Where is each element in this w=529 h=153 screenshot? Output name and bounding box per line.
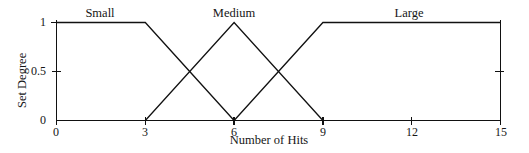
y-axis-title: Set Degree bbox=[16, 53, 29, 108]
x-tick-label-15: 15 bbox=[489, 126, 513, 138]
x-tick-label-6: 6 bbox=[222, 126, 246, 138]
series-label-medium: Medium bbox=[203, 7, 265, 20]
series-label-small: Small bbox=[70, 7, 130, 20]
series-line-medium bbox=[145, 23, 323, 121]
x-tick-label-3: 3 bbox=[133, 126, 157, 138]
x-tick-label-0: 0 bbox=[44, 126, 68, 138]
y-tick-label-0: 0 bbox=[18, 114, 46, 126]
plot-canvas bbox=[0, 0, 529, 153]
fuzzy-membership-chart: Set Degree Number of Hits 1 0.5 0 0 3 6 … bbox=[0, 0, 529, 153]
series-label-large: Large bbox=[379, 7, 439, 20]
x-tick-label-9: 9 bbox=[311, 126, 335, 138]
series-line-small bbox=[57, 23, 235, 121]
y-tick-label-1: 1 bbox=[18, 16, 46, 28]
series-line-large bbox=[234, 23, 500, 121]
y-tick-label-0point5: 0.5 bbox=[18, 65, 46, 77]
x-tick-label-12: 12 bbox=[400, 126, 424, 138]
